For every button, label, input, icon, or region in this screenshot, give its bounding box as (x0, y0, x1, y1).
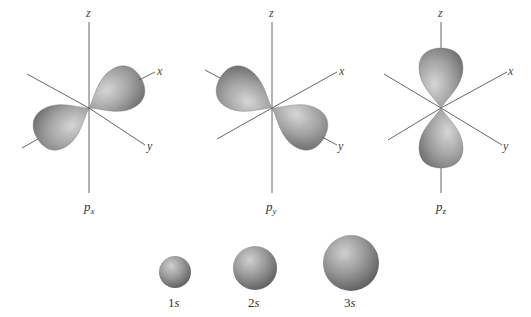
label-3s: 3s (344, 296, 356, 309)
py-x-label: x (339, 65, 344, 77)
px-x-label: x (157, 65, 162, 77)
py-z-label: z (269, 7, 274, 19)
pz-orbital (384, 22, 507, 193)
label-1s: 1s (168, 296, 180, 309)
x-axis-end (139, 72, 155, 80)
px-z-label: z (86, 7, 91, 19)
py-orbital (205, 22, 337, 193)
px-y-label: y (147, 140, 152, 152)
px-orbital (22, 22, 155, 193)
sphere-1s (159, 256, 191, 288)
py-y-label: y (338, 140, 343, 152)
px-label: px (84, 200, 95, 216)
label-2s: 2s (248, 296, 260, 309)
sphere-3s (323, 235, 379, 291)
pz-label: pz (436, 200, 446, 216)
orbital-diagram (0, 0, 531, 317)
sphere-2s (233, 246, 277, 290)
pz-z-label: z (438, 7, 443, 19)
y-axis-front (89, 108, 145, 145)
y-axis-back (27, 74, 89, 108)
pz-y-label: y (503, 140, 508, 152)
pz-x-label: x (508, 65, 513, 77)
x-axis-start (22, 139, 38, 148)
py-label: py (266, 200, 277, 216)
